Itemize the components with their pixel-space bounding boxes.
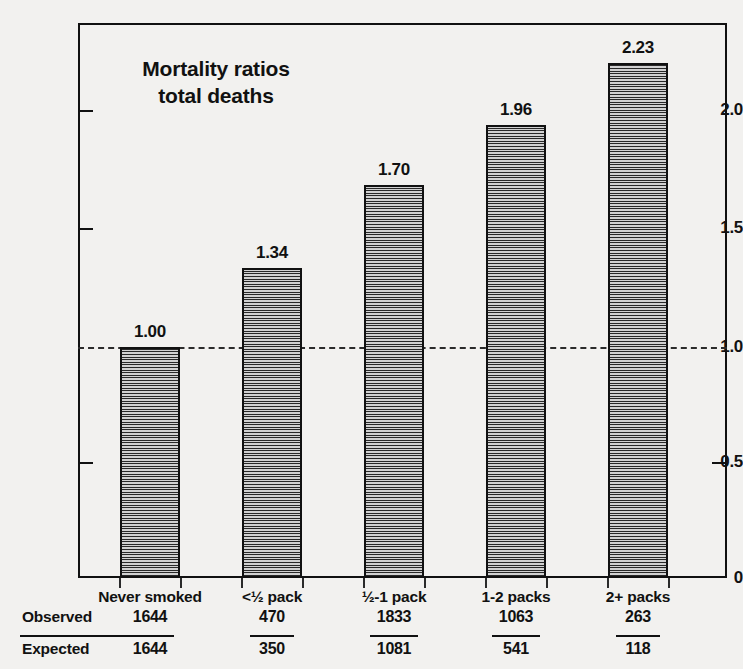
xtick-mark-0b — [180, 578, 182, 588]
table-cell-expected-4: 118 — [603, 640, 673, 658]
ytick-label-0: 0 — [683, 568, 743, 588]
table-rule-4 — [616, 635, 660, 637]
category-label-never-smoked: Never smoked — [90, 588, 210, 606]
bar-two-plus-packs[interactable] — [608, 63, 668, 578]
ytick-label-2-0: 2.0 — [683, 100, 743, 120]
table-cell-observed-1: 470 — [237, 608, 307, 626]
chart-title-line-1: Mortality ratios — [96, 56, 336, 83]
category-label-less-half-pack: <½ pack — [212, 588, 332, 606]
table-cell-expected-2: 1081 — [359, 640, 429, 658]
table-cell-observed-4: 263 — [603, 608, 673, 626]
category-label-half-to-one-pack: ½-1 pack — [334, 588, 454, 606]
bar-less-half-pack[interactable] — [242, 268, 302, 578]
bar-value-half-to-one-pack: 1.70 — [354, 160, 434, 180]
xtick-mark-1b — [302, 578, 304, 588]
table-cell-expected-0: 1644 — [115, 640, 185, 658]
category-label-two-plus-packs: 2+ packs — [578, 588, 698, 606]
xtick-mark-4b — [668, 578, 670, 588]
data-table: Observed Expected 1644 1644 470 350 1833… — [0, 608, 743, 669]
ytick-mark-1-5 — [78, 228, 93, 230]
bar-never-smoked[interactable] — [120, 347, 180, 578]
table-cell-expected-3: 541 — [481, 640, 551, 658]
xtick-mark-1 — [241, 578, 243, 588]
xtick-mark-2b — [424, 578, 426, 588]
ytick-mark-0-5 — [78, 462, 93, 464]
table-cell-observed-3: 1063 — [481, 608, 551, 626]
bar-chart: 2.0 1.5 1.0 0.5 0 Mortality ratios total… — [0, 0, 743, 590]
xtick-mark-0 — [119, 578, 121, 588]
table-rule-rowlabel — [20, 635, 128, 637]
ytick-mark-2-0 — [78, 110, 93, 112]
table-cell-observed-2: 1833 — [359, 608, 429, 626]
xtick-mark-4 — [607, 578, 609, 588]
bar-one-to-two-packs[interactable] — [486, 125, 546, 578]
bar-value-never-smoked: 1.00 — [110, 322, 190, 342]
ytick-mark-right-0-5 — [712, 462, 727, 464]
chart-title-line-2: total deaths — [96, 83, 336, 110]
bar-half-to-one-pack[interactable] — [364, 185, 424, 578]
table-cell-expected-1: 350 — [237, 640, 307, 658]
xtick-mark-3b — [546, 578, 548, 588]
table-rule-3 — [492, 635, 540, 637]
category-label-one-to-two-packs: 1-2 packs — [456, 588, 576, 606]
bar-value-one-to-two-packs: 1.96 — [476, 100, 556, 120]
table-rule-1 — [250, 635, 294, 637]
xtick-mark-3 — [485, 578, 487, 588]
bar-value-less-half-pack: 1.34 — [232, 243, 312, 263]
xtick-mark-2 — [363, 578, 365, 588]
table-cell-observed-0: 1644 — [115, 608, 185, 626]
bar-value-two-plus-packs: 2.23 — [598, 38, 678, 58]
chart-title: Mortality ratios total deaths — [96, 56, 336, 110]
table-rule-0 — [126, 635, 174, 637]
ytick-label-1-5: 1.5 — [683, 218, 743, 238]
table-rule-2 — [370, 635, 418, 637]
